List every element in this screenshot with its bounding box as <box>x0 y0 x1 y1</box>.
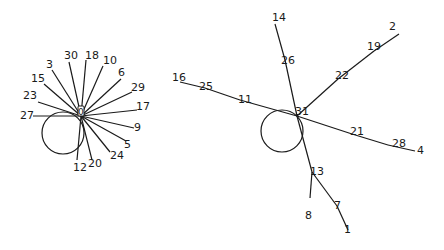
node-label: 14 <box>272 11 286 24</box>
node-label: 20 <box>88 157 102 170</box>
edge-0-23 <box>38 102 81 116</box>
node-label: 5 <box>124 138 131 151</box>
right-tree-diagram: 142621922162511212841387131 <box>172 11 424 236</box>
node-label: 12 <box>73 161 87 174</box>
node-label: 25 <box>199 80 213 93</box>
node-label: 21 <box>350 125 364 138</box>
node-label: 4 <box>417 144 424 157</box>
node-label: 6 <box>118 66 125 79</box>
node-label: 24 <box>110 149 124 162</box>
node-label: 18 <box>85 49 99 62</box>
edge-31-13 <box>297 116 312 172</box>
edge-0-29 <box>81 92 132 116</box>
node-label: 3 <box>46 58 53 71</box>
hub-label: 0 <box>78 107 84 117</box>
node-label: 19 <box>367 40 381 53</box>
edge-0-3 <box>52 70 81 116</box>
node-label: 28 <box>392 137 406 150</box>
hub-label: 31 <box>295 105 309 118</box>
edge-31-21 <box>297 116 352 134</box>
node-label: 29 <box>131 81 145 94</box>
node-label: 30 <box>64 49 78 62</box>
node-label: 17 <box>136 100 150 113</box>
graph-canvas: 272315330181062917952420120 142621922162… <box>0 0 444 250</box>
left-star-diagram: 272315330181062917952420120 <box>20 49 150 174</box>
edge-0-12 <box>77 116 81 160</box>
node-label: 1 <box>344 223 351 236</box>
node-label: 11 <box>238 93 252 106</box>
edge-0-6 <box>81 79 121 116</box>
node-label: 16 <box>172 71 186 84</box>
node-label: 9 <box>134 121 141 134</box>
edge-0-17 <box>81 110 137 116</box>
node-label: 13 <box>310 165 324 178</box>
node-label: 26 <box>281 54 295 67</box>
node-label: 23 <box>23 89 37 102</box>
edge-0-5 <box>81 116 126 141</box>
node-label: 7 <box>334 199 341 212</box>
node-label: 22 <box>335 69 349 82</box>
node-label: 27 <box>20 109 34 122</box>
node-label: 15 <box>31 72 45 85</box>
node-label: 10 <box>103 54 117 67</box>
node-label: 2 <box>389 20 396 33</box>
node-label: 8 <box>305 209 312 222</box>
